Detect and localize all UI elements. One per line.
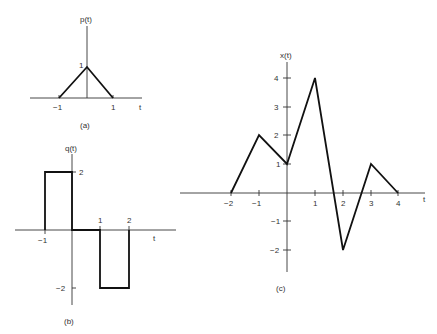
plot-c-xtick-label: 3 bbox=[369, 199, 374, 208]
plot-b-xtick-label: −1 bbox=[38, 236, 48, 245]
plot-c-xtick-label: 2 bbox=[341, 199, 346, 208]
plot-b-xtick-label: 2 bbox=[127, 216, 132, 225]
plot-b-caption: (b) bbox=[64, 317, 74, 326]
plot-b-title: q(t) bbox=[65, 144, 77, 153]
plot-a-ytick-label: 1 bbox=[79, 61, 84, 70]
plot-a-title: p(t) bbox=[80, 15, 92, 24]
plot-c-ytick-label: 4 bbox=[274, 74, 279, 83]
plot-a-xtick-label: −1 bbox=[53, 103, 63, 112]
plot-c-xlabel: t bbox=[423, 195, 426, 204]
plot-a-signal-line bbox=[59, 67, 113, 98]
plot-b-xlabel: t bbox=[153, 234, 156, 243]
plot-c-xtick-label: −1 bbox=[252, 199, 262, 208]
plot-c-xtick-label: −2 bbox=[224, 199, 234, 208]
figure: p(t) 1 −1 1 t (a) q(t) 2 −2 −1 1 2 t (b) bbox=[0, 0, 437, 334]
plot-c-ytick-label: 3 bbox=[274, 103, 279, 112]
plot-c-signal-line bbox=[231, 78, 398, 250]
plot-a-xlabel: t bbox=[139, 103, 142, 112]
plot-b-xtick-label: 1 bbox=[98, 216, 103, 225]
plot-c-ytick-label: 2 bbox=[274, 131, 279, 140]
plot-a: p(t) 1 −1 1 t (a) bbox=[30, 15, 142, 130]
plot-b-ytick-label: −2 bbox=[56, 284, 66, 293]
plot-c-caption: (c) bbox=[276, 284, 286, 293]
plot-c-ytick-label: 1 bbox=[276, 160, 281, 169]
plot-a-caption: (a) bbox=[80, 121, 90, 130]
plot-a-xtick-label: 1 bbox=[111, 103, 116, 112]
plot-c-ytick-label: −1 bbox=[271, 217, 281, 226]
plot-c-ytick-label: −2 bbox=[270, 246, 280, 255]
plot-c-title: x(t) bbox=[280, 51, 292, 60]
plot-b-ytick-label: 2 bbox=[79, 168, 84, 177]
plot-c: x(t) 4 3 2 1 −1 −2 −2 −1 1 2 3 4 t (c) bbox=[180, 51, 426, 293]
plot-c-xtick-label: 4 bbox=[396, 199, 401, 208]
plot-b: q(t) 2 −2 −1 1 2 t (b) bbox=[15, 144, 176, 326]
plot-c-xtick-label: 1 bbox=[313, 199, 318, 208]
